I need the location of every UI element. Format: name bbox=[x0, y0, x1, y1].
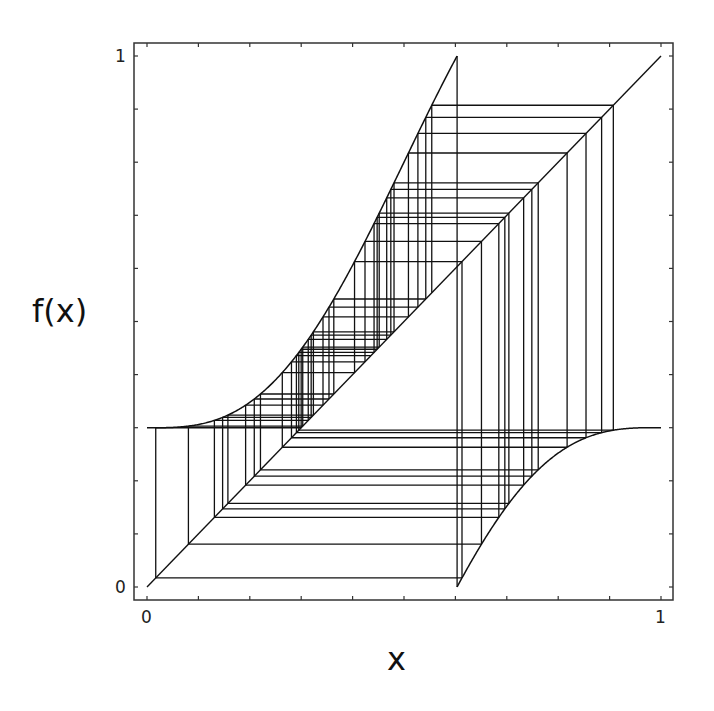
cobweb-plot bbox=[0, 0, 714, 711]
y-tick-label-0: 0 bbox=[115, 577, 126, 597]
function-curve-right-branch bbox=[457, 428, 661, 587]
y-axis-label: f(x) bbox=[32, 292, 87, 330]
x-axis-label: x bbox=[387, 640, 406, 678]
y-tick-label-1: 1 bbox=[115, 46, 126, 66]
identity-diagonal bbox=[147, 56, 661, 587]
x-tick-label-1: 1 bbox=[655, 607, 666, 627]
x-tick-label-0: 0 bbox=[141, 607, 152, 627]
